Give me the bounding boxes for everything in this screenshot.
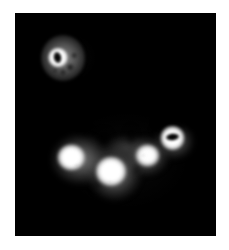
cluster-grey-mass [44, 107, 194, 208]
cluster-lobe-4-dark-lumen [165, 132, 181, 142]
cluster-dark-sulci [44, 107, 194, 208]
region-top-left-ring[interactable] [41, 35, 85, 81]
dark-lumen [52, 50, 64, 65]
bright-ring [47, 42, 69, 73]
cluster-lobe-2-core [94, 155, 128, 189]
cluster-lobe-4-dark-cap [152, 111, 192, 131]
cluster-lobe-3-core [134, 143, 161, 169]
region-lower-cluster[interactable] [44, 107, 194, 208]
region-halo [41, 35, 85, 81]
cluster-lobe-4-ring [159, 124, 186, 152]
panel-background-noise [15, 13, 216, 236]
region-mottle-texture [43, 37, 83, 79]
image-panel[interactable] [15, 13, 216, 236]
cluster-lobe-1-core [56, 143, 90, 175]
cluster-core-texture [44, 107, 194, 208]
figure-root: Grayscale imaging panel [0, 0, 229, 250]
